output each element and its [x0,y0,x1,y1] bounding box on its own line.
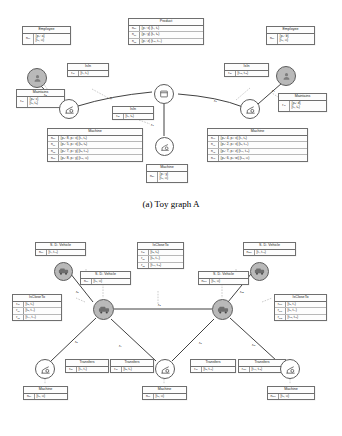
edge-label-r5: r₅ [75,340,78,344]
row-key: n50 [267,34,278,44]
machine-node-9[interactable] [155,359,175,379]
row-key: r10 [68,71,79,77]
row-key: n13 [48,155,59,161]
row-key: n120 [244,250,255,256]
row-value: {p₀: 7, p₁: z} [t₁₂, t₁₆) [219,149,307,155]
isin-left-box: IsIn r10 [t₁, t₇) [67,63,109,77]
isin-mid-rows: r20 [t₇, t₈) [113,114,153,120]
product-rows: n30 {p₁: x} [t₁, t₇) n31 {p₁: y} [t₇, t₈… [129,26,203,45]
machine-9-box: Machine n90 [t₀, ∞) [142,386,187,400]
table-row: n60 [t₀, ∞) [81,279,130,285]
machine-node-mid[interactable] [155,137,174,156]
graph-b-stage: S. D. Vehicle n70 [t₁, t₁₆) S. D. Vehicl… [0,218,342,418]
machine-11-rows: n110 [t₀, ∞) [268,394,314,400]
row-value: [t₅, t₇) [122,367,153,373]
machine-left-box: Machine n10 {p₀: 8, p₁: x} [t₁, t₆) n11 … [47,128,143,162]
row-key: n40 [208,136,219,142]
row-value: [t₁, t₁₆) [255,250,295,256]
machine-node-left[interactable] [59,99,79,119]
row-key: n00 [23,34,34,44]
employee-left-box: Employee n00 {p₂: a} [t₀, ∞) [22,26,71,45]
edge-label-r9: r₉ [199,341,202,345]
row-key: n20 [147,172,158,182]
person-icon [32,73,43,84]
edge-label-r0: r₀ [44,93,47,97]
row-value: [t₆, t₁₁) [149,256,183,262]
row-value: {p₀: 4, p₁: x} [t₁, t₆) [219,136,307,142]
row-key: r100 [275,302,286,308]
table-row: n32 {p₁: z} [t₁₃, t₁₄) [129,38,203,45]
row-value: [t₃, t₇) [24,302,61,308]
caption-a: (a) Toy graph A [0,199,342,209]
isclose-8-rows: r80 [t₃, t₆) r81 [t₆, t₁₁) r82 [t₁₂, t₁₅… [138,250,183,269]
transfers-5-rows: r50 [t₂, t₄) [66,367,108,373]
table-row: n31 {p₁: y} [t₇, t₈) [129,31,203,38]
table-row: n11 {p₀: 5, p₁: x} [t₆, t₈) [48,141,142,148]
machine-icon [160,142,170,152]
isin-right-rows: r30 [t₁₃, t₁₅) [225,71,268,77]
table-row: r40 {p₃: d} [t₇, t₈) [279,101,326,111]
table-row: n13 {p₀: 8, p₁: y} [t₁₆, ∞) [48,154,142,161]
transfers-11-rows: r110 [t₁₂, t₁₃) [239,367,285,373]
isin-left-rows: r10 [t₁, t₇) [68,71,108,77]
machine-9-rows: n90 [t₀, ∞) [143,394,186,400]
sdv-6-box: S. D. Vehicle n60 [t₀, ∞) [80,271,131,285]
row-value: {p₁: x} [t₁, t₇) [140,26,203,32]
row-value: [t₈, t₁₀) [202,367,235,373]
product-icon [159,89,169,99]
machine-left-rows: n10 {p₀: 8, p₁: x} [t₁, t₆) n11 {p₀: 5, … [48,136,142,162]
row-key: r90 [191,367,202,373]
table-row: n70 [t₁, t₁₆) [36,250,85,256]
maintains-right-rows: r40 {p₃: d} [t₇, t₈) [279,101,326,111]
table-row: r61 [t₈, t₁₁) [13,307,61,314]
table-row: n00 {p₂: a} [t₀, ∞) [23,34,70,44]
table-row: r60 [t₃, t₇) [13,302,61,308]
row-key: n32 [129,39,140,45]
row-key: r81 [138,256,149,262]
sdv-10-rows: n100 [t₀, ∞) [199,279,248,285]
product-node[interactable] [154,84,174,104]
row-value: [t₁₃, t₁₆) [286,315,326,321]
edge-label-r7: r₇ [119,344,121,348]
sdv-7-box: S. D. Vehicle n70 [t₁, t₁₆) [35,242,86,256]
vehicle-node-10[interactable] [212,299,233,320]
row-value: [t₁₁, t₁₄) [24,315,61,321]
row-key: r110 [239,367,250,373]
table-row: n12 {p₀: 7, p₁: y} [t₈, t₁₆) [48,148,142,155]
machine-right-box: Machine n40 {p₀: 4, p₁: x} [t₁, t₆) n41 … [207,128,308,162]
table-row: n42 {p₀: 7, p₁: z} [t₁₂, t₁₆) [208,148,307,155]
row-value: [t₁, t₁₆) [47,250,85,256]
table-row: r20 [t₇, t₈) [113,114,153,120]
table-row: n30 {p₁: x} [t₁, t₇) [129,26,203,32]
edge-label-r1: r₁ [110,96,112,100]
row-value: [t₁₂, t₁₅) [149,263,183,269]
edge-label-r6: r₆ [76,290,79,294]
row-value: [t₇, t₈) [124,114,153,120]
isclose-6-box: IsCloseTo r60 [t₃, t₇) r61 [t₈, t₁₁) r62… [12,294,62,321]
row-value: [t₆, t₁₁) [286,308,326,314]
row-value: {p₂: a} [t₀, ∞) [34,34,70,44]
vehicle-node-7[interactable] [54,262,73,281]
row-value: {p₀: 8, p₁: x} [t₁, t₆) [59,136,142,142]
machine-5-rows: n50 [t₀, ∞) [24,394,67,400]
vehicle-node-6[interactable] [93,299,114,320]
employee-node-right[interactable] [276,66,296,86]
table-row: n40 {p₀: 4, p₁: x} [t₁, t₆) [208,136,307,142]
employee-node-left[interactable] [27,68,47,88]
machine-icon [245,104,256,115]
row-key: n31 [129,32,140,38]
edge-label-r11: r₁₁ [252,343,255,347]
machine-node-11[interactable] [280,359,300,379]
vehicle-node-12[interactable] [250,262,269,281]
vehicle-icon [58,267,69,276]
row-value: {p₀: 2, p₁: x} [t₆, t₁₂) [219,142,307,148]
table-row: n100 [t₀, ∞) [199,279,248,285]
row-key: r101 [275,308,286,314]
row-value: {p₀: 8, p₁: y} [t₁₆, ∞) [59,155,142,161]
transfers-7-box: Transfers r70 [t₅, t₇) [110,359,154,373]
row-key: n11 [48,142,59,148]
table-row: r62 [t₁₁, t₁₄) [13,314,61,321]
vehicle-icon [217,305,229,315]
machine-node-right[interactable] [240,99,260,119]
machine-node-5[interactable] [35,359,55,379]
